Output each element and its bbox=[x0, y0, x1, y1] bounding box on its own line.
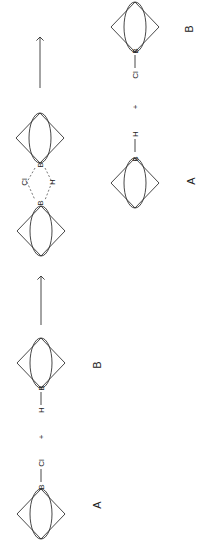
ts-boron-bottom: B bbox=[36, 200, 45, 205]
reactant-cage-a bbox=[17, 489, 65, 539]
reactant-b-boron: B bbox=[37, 385, 46, 390]
ts-cage-bottom bbox=[17, 206, 65, 256]
ts-bridge-hydrogen: H bbox=[48, 179, 57, 185]
product-cage-a bbox=[111, 158, 159, 208]
reactant-cage-b bbox=[17, 338, 65, 388]
product-cage-b bbox=[111, 2, 159, 52]
reactant-label-a: A bbox=[91, 501, 103, 509]
product-b-chlorine: Cl bbox=[131, 71, 140, 79]
product-label-b: B bbox=[183, 25, 195, 32]
product-label-a: A bbox=[185, 177, 197, 185]
reactant-label-b: B bbox=[91, 361, 103, 368]
product-b-boron: B bbox=[131, 48, 140, 53]
ts-bridge-chlorine: Cl bbox=[20, 178, 29, 186]
reactant-plus: + bbox=[37, 434, 46, 439]
ts-boron-top: B bbox=[36, 162, 45, 167]
reactant-b-hydrogen: H bbox=[37, 407, 46, 413]
product-a-hydrogen: H bbox=[131, 131, 140, 137]
product-plus: + bbox=[131, 104, 140, 109]
reaction-diagram: B H + Cl B B A B Cl H B B Cl + H B B A bbox=[0, 0, 207, 546]
reactant-a-chlorine: Cl bbox=[37, 459, 46, 467]
ts-cage-top bbox=[16, 113, 64, 163]
